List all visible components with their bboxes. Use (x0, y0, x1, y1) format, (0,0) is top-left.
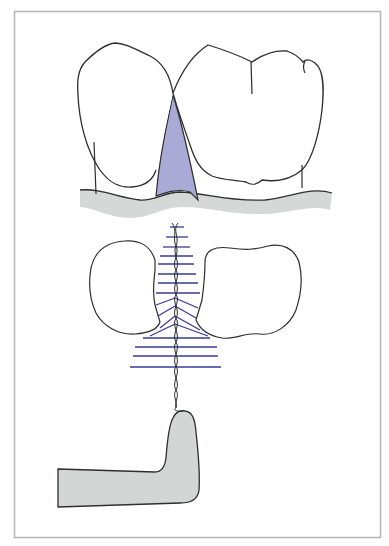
right-tooth-section (196, 245, 301, 338)
dental-figure (0, 0, 389, 546)
left-tooth-section (90, 241, 160, 334)
